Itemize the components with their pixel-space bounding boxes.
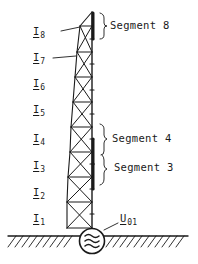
current-symbol: I [33,186,39,198]
current-label-i7: I7 [33,52,45,64]
segment-label-8: Segment 8 [110,20,170,31]
source-index: 01 [127,218,137,227]
segment-8-brace [100,13,107,39]
current-label-i2: I2 [33,187,45,199]
current-symbol: I [33,132,39,144]
current-index: 4 [40,138,45,147]
segment-label-4: Segment 4 [112,133,172,144]
segment-4-brace [100,124,107,155]
source-label-u01: U01 [120,213,137,225]
current-symbol: I [33,212,39,224]
source-symbol: U [120,212,126,224]
current-label-i3: I3 [33,160,45,172]
segment-label-3: Segment 3 [114,162,174,173]
current-label-i5: I5 [33,104,45,116]
u01-pointer-line [104,223,118,230]
i7-pointer-line [53,56,76,58]
current-index: 1 [40,218,45,227]
current-symbol: I [33,51,39,63]
current-label-i8: I8 [33,26,45,38]
current-index: 8 [40,31,45,40]
current-symbol: I [33,159,39,171]
i8-pointer-line [61,27,80,31]
current-index: 5 [40,109,45,118]
current-symbol: I [33,25,39,37]
current-label-i1: I1 [33,213,45,225]
current-label-i4: I4 [33,133,45,145]
current-index: 3 [40,165,45,174]
current-symbol: I [33,77,39,89]
segment-3-brace [100,155,107,185]
current-label-i6: I6 [33,78,45,90]
current-index: 2 [40,192,45,201]
current-index: 6 [40,83,45,92]
current-symbol: I [33,103,39,115]
current-index: 7 [40,57,45,66]
